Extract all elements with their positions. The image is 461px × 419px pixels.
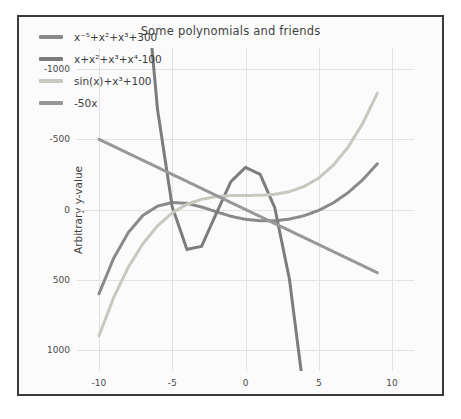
curve-line	[99, 139, 377, 272]
legend-item[interactable]: sin(x)+x³+100	[39, 75, 162, 87]
curve-line	[99, 93, 377, 336]
y-tick-label: 500	[53, 275, 70, 285]
x-tick-label: -5	[168, 378, 177, 388]
y-tick-label: 1000	[47, 345, 70, 355]
legend-item-label: x⁻⁵+x²+x³+300	[74, 31, 157, 43]
legend-item-label: x+x²+x³+x⁴-100	[74, 53, 162, 65]
legend-color-swatch	[39, 35, 63, 39]
legend-color-swatch	[39, 101, 63, 105]
legend-color-swatch	[39, 57, 63, 61]
legend-color-swatch	[39, 79, 63, 83]
figure-panel: Some polynomials and friends Arbitrary y…	[17, 15, 444, 396]
legend-item[interactable]: x+x²+x³+x⁴-100	[39, 53, 162, 65]
x-tick-label: 5	[316, 378, 322, 388]
legend-item-label: sin(x)+x³+100	[74, 75, 152, 87]
legend-item-label: -50x	[74, 97, 97, 109]
x-tick-label: 10	[386, 378, 397, 388]
legend-item[interactable]: -50x	[39, 97, 162, 109]
legend-item[interactable]: x⁻⁵+x²+x³+300	[39, 31, 162, 43]
curve-line	[99, 164, 377, 294]
y-tick-label: -500	[50, 134, 70, 144]
y-tick-label: 0	[64, 205, 70, 215]
x-tick-label: 0	[243, 378, 249, 388]
legend: x⁻⁵+x²+x³+300x+x²+x³+x⁴-100sin(x)+x³+100…	[39, 31, 162, 109]
x-tick-label: -10	[92, 378, 107, 388]
